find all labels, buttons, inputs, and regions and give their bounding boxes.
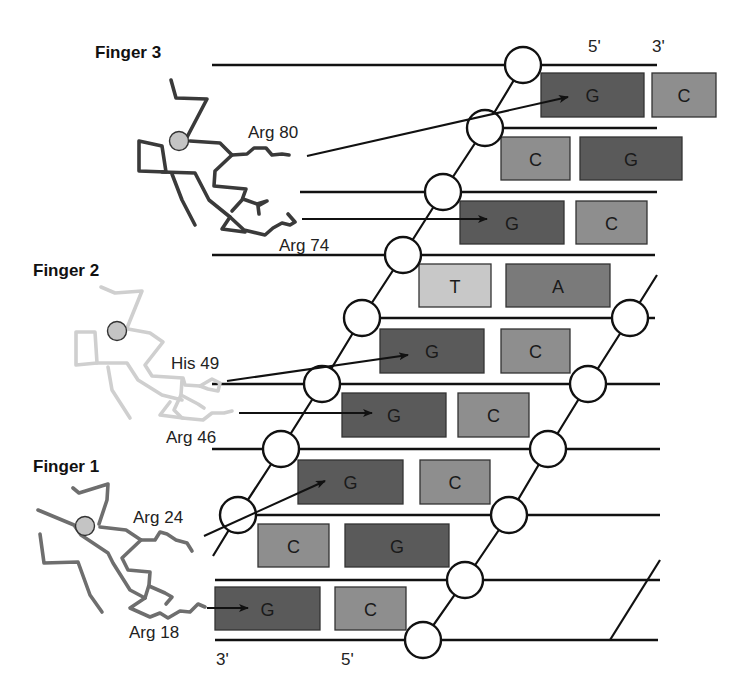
base-letter: G [387,406,401,426]
base-pair-row: GC [342,393,529,437]
base-g: G [298,460,403,504]
base-a: A [506,264,610,307]
base-g: G [342,393,446,437]
strand-end-label: 5' [341,650,354,669]
residue-label: Arg 74 [279,236,329,255]
base-pair-row: CG [501,137,682,180]
base-letter: C [487,406,500,426]
base-letter: T [450,277,461,297]
strand-end-label: 3' [652,37,665,56]
base-g: G [580,137,682,180]
base-c: C [501,137,570,180]
base-t: T [419,264,491,307]
base-letter: C [364,600,377,620]
base-pair-row: GC [380,329,570,373]
base-g: G [541,73,644,117]
base-c: C [335,587,406,630]
base-letter: G [505,214,519,234]
residue-label: His 49 [171,354,219,373]
zinc-atom-icon [108,322,127,341]
strand-end-label: 3' [216,650,229,669]
base-g: G [345,524,449,567]
zinc-atom-icon [170,132,189,151]
strand-end-label: 5' [588,37,601,56]
base-c: C [420,460,490,504]
finger-title: Finger 2 [33,261,99,280]
base-letter: G [585,86,599,106]
base-pair-row: CG [258,524,449,567]
base-letter: C [449,473,462,493]
base-letter: A [552,277,564,297]
base-c: C [258,524,329,567]
base-g: G [460,201,564,244]
base-pair-row: GC [298,460,490,504]
base-letter: G [343,473,357,493]
base-c: C [501,329,570,373]
base-pair-row: GC [460,201,647,244]
finger-3-chain [139,80,295,235]
finger-title: Finger 3 [95,43,161,62]
base-letter: C [605,214,618,234]
zinc-atom-icon [76,517,95,536]
base-letter: G [390,537,404,557]
residue-label: Arg 18 [129,623,179,642]
base-letter: C [287,537,300,557]
base-letter: G [425,342,439,362]
base-letter: G [260,600,274,620]
zinc-finger-dna-diagram: GCCGGCTAGCGCGCCGGC [0,0,731,686]
base-pair-row: TA [419,264,610,307]
residue-label: Arg 80 [248,123,298,142]
base-c: C [652,73,716,117]
base-letter: C [529,342,542,362]
finger-title: Finger 1 [33,457,99,476]
residue-label: Arg 46 [166,428,216,447]
base-c: C [458,393,529,437]
residue-label: Arg 24 [133,508,183,527]
base-g: G [380,329,484,373]
base-letter: G [624,150,638,170]
base-c: C [576,201,647,244]
base-pair-row: GC [541,73,716,117]
base-letter: C [678,86,691,106]
finger-1-chain [38,484,205,618]
base-letter: C [529,150,542,170]
